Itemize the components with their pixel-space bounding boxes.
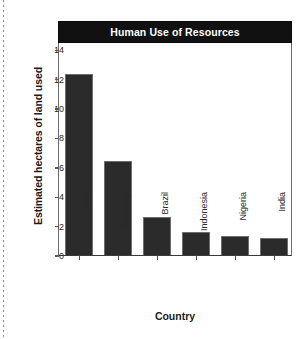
x-axis-tick-label: India <box>277 192 287 262</box>
y-axis-tick-mark <box>55 108 59 109</box>
y-axis-tick-mark <box>55 167 59 168</box>
y-axis-tick-label: 4 <box>36 191 64 203</box>
plot-area: 02468101214 <box>58 43 292 256</box>
x-axis-tick-mark <box>79 255 80 260</box>
y-axis-tick-label: 2 <box>36 221 64 233</box>
x-axis-tick-mark <box>274 255 275 260</box>
plot-inner: 02468101214 <box>59 43 291 255</box>
x-axis-title: Country <box>58 310 292 322</box>
x-axis-tick-mark <box>235 255 236 260</box>
chart-title-banner: Human Use of Resources <box>58 21 292 43</box>
y-axis-tick-label: 14 <box>36 44 64 56</box>
x-axis-tick-label: USA <box>82 192 92 262</box>
y-axis-tick-mark <box>55 255 59 256</box>
y-axis-tick-mark <box>55 50 59 51</box>
y-axis-tick-label: 10 <box>36 103 64 115</box>
x-axis-tick-label: Brazil <box>160 192 170 262</box>
y-axis-tick-mark <box>55 226 59 227</box>
y-axis-tick-label: 8 <box>36 132 64 144</box>
x-axis-tick-mark <box>118 255 119 260</box>
y-axis-tick-label: 12 <box>36 74 64 86</box>
y-axis-tick-mark <box>55 79 59 80</box>
x-axis-tick-label: Indonesia <box>199 192 209 262</box>
y-axis-tick-label: 0 <box>36 250 64 262</box>
chart-page: Estimated hectares of land used Human Us… <box>0 0 304 339</box>
y-axis-tick-mark <box>55 138 59 139</box>
chart-title: Human Use of Resources <box>110 26 239 38</box>
x-axis-tick-mark <box>157 255 158 260</box>
x-axis-tick-label: Germany <box>121 192 131 262</box>
x-axis-tick-mark <box>196 255 197 260</box>
y-axis-tick-label: 6 <box>36 162 64 174</box>
y-axis-tick-mark <box>55 197 59 198</box>
x-axis-tick-label: Nigeria <box>238 192 248 262</box>
page-margin-dotted-rule <box>3 0 4 339</box>
